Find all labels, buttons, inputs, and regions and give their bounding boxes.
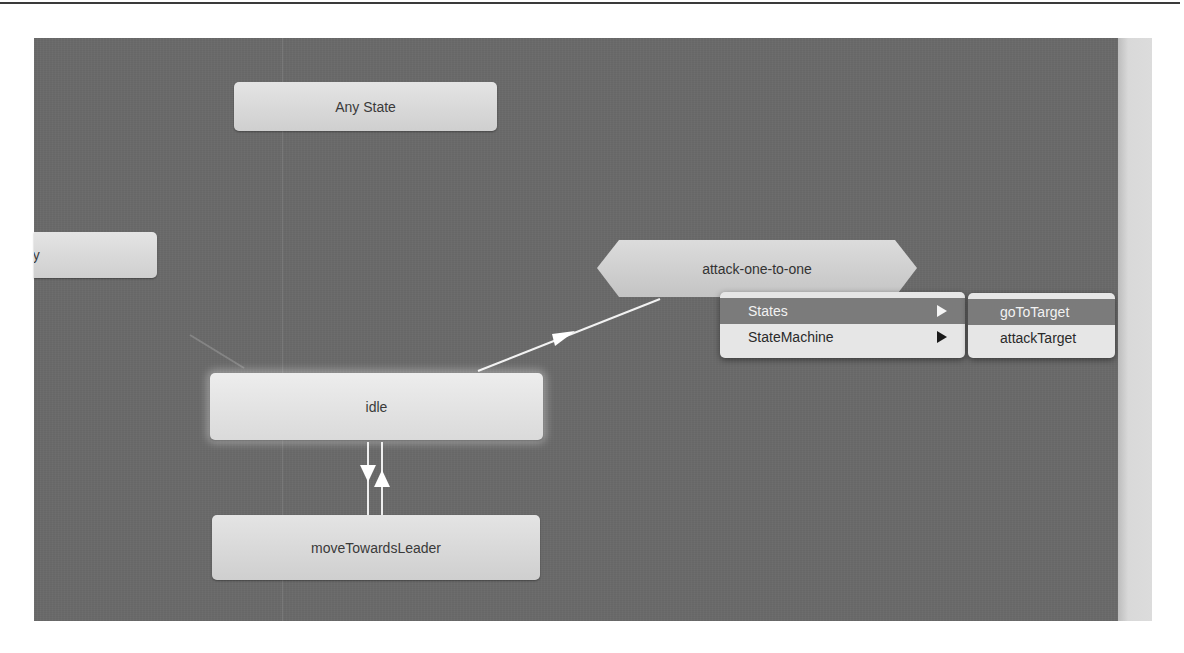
states-submenu: goToTarget attackTarget <box>968 293 1115 358</box>
state-node-label: ry <box>34 247 40 263</box>
state-node-label: Any State <box>335 99 396 115</box>
menu-item-label: goToTarget <box>1000 304 1069 320</box>
menu-item-label: attackTarget <box>1000 330 1076 346</box>
menu-item-label: States <box>748 303 788 319</box>
arrow-up-icon <box>374 470 390 487</box>
state-machine-node-attack-one-to-one[interactable]: attack-one-to-one <box>597 240 917 297</box>
transition-idle-to-attack[interactable] <box>478 299 660 371</box>
menu-item-states[interactable]: States <box>720 298 965 324</box>
arrow-down-icon <box>360 465 376 482</box>
state-machine-graph-canvas[interactable]: Any State ry attack-one-to-one idle move… <box>34 38 1118 621</box>
state-node-move-towards-leader[interactable]: moveTowardsLeader <box>212 515 540 580</box>
page-top-rule <box>0 2 1180 4</box>
transition-arrow-icon <box>552 331 575 346</box>
state-node-label: moveTowardsLeader <box>311 540 441 556</box>
state-node-any-state[interactable]: Any State <box>234 82 497 131</box>
transition-entry-to-idle[interactable] <box>190 335 244 368</box>
submenu-item-attack-target[interactable]: attackTarget <box>968 325 1115 351</box>
state-node-label: idle <box>366 399 388 415</box>
state-node-label: attack-one-to-one <box>597 240 917 297</box>
menu-item-state-machine[interactable]: StateMachine <box>720 324 965 350</box>
submenu-arrow-icon <box>937 305 947 317</box>
state-node-entry[interactable]: ry <box>34 232 157 278</box>
state-node-idle[interactable]: idle <box>210 373 543 440</box>
inspector-panel-edge <box>1118 38 1152 621</box>
menu-item-label: StateMachine <box>748 329 834 345</box>
submenu-arrow-icon <box>937 331 947 343</box>
submenu-item-go-to-target[interactable]: goToTarget <box>968 299 1115 325</box>
context-menu: States StateMachine <box>720 292 965 358</box>
